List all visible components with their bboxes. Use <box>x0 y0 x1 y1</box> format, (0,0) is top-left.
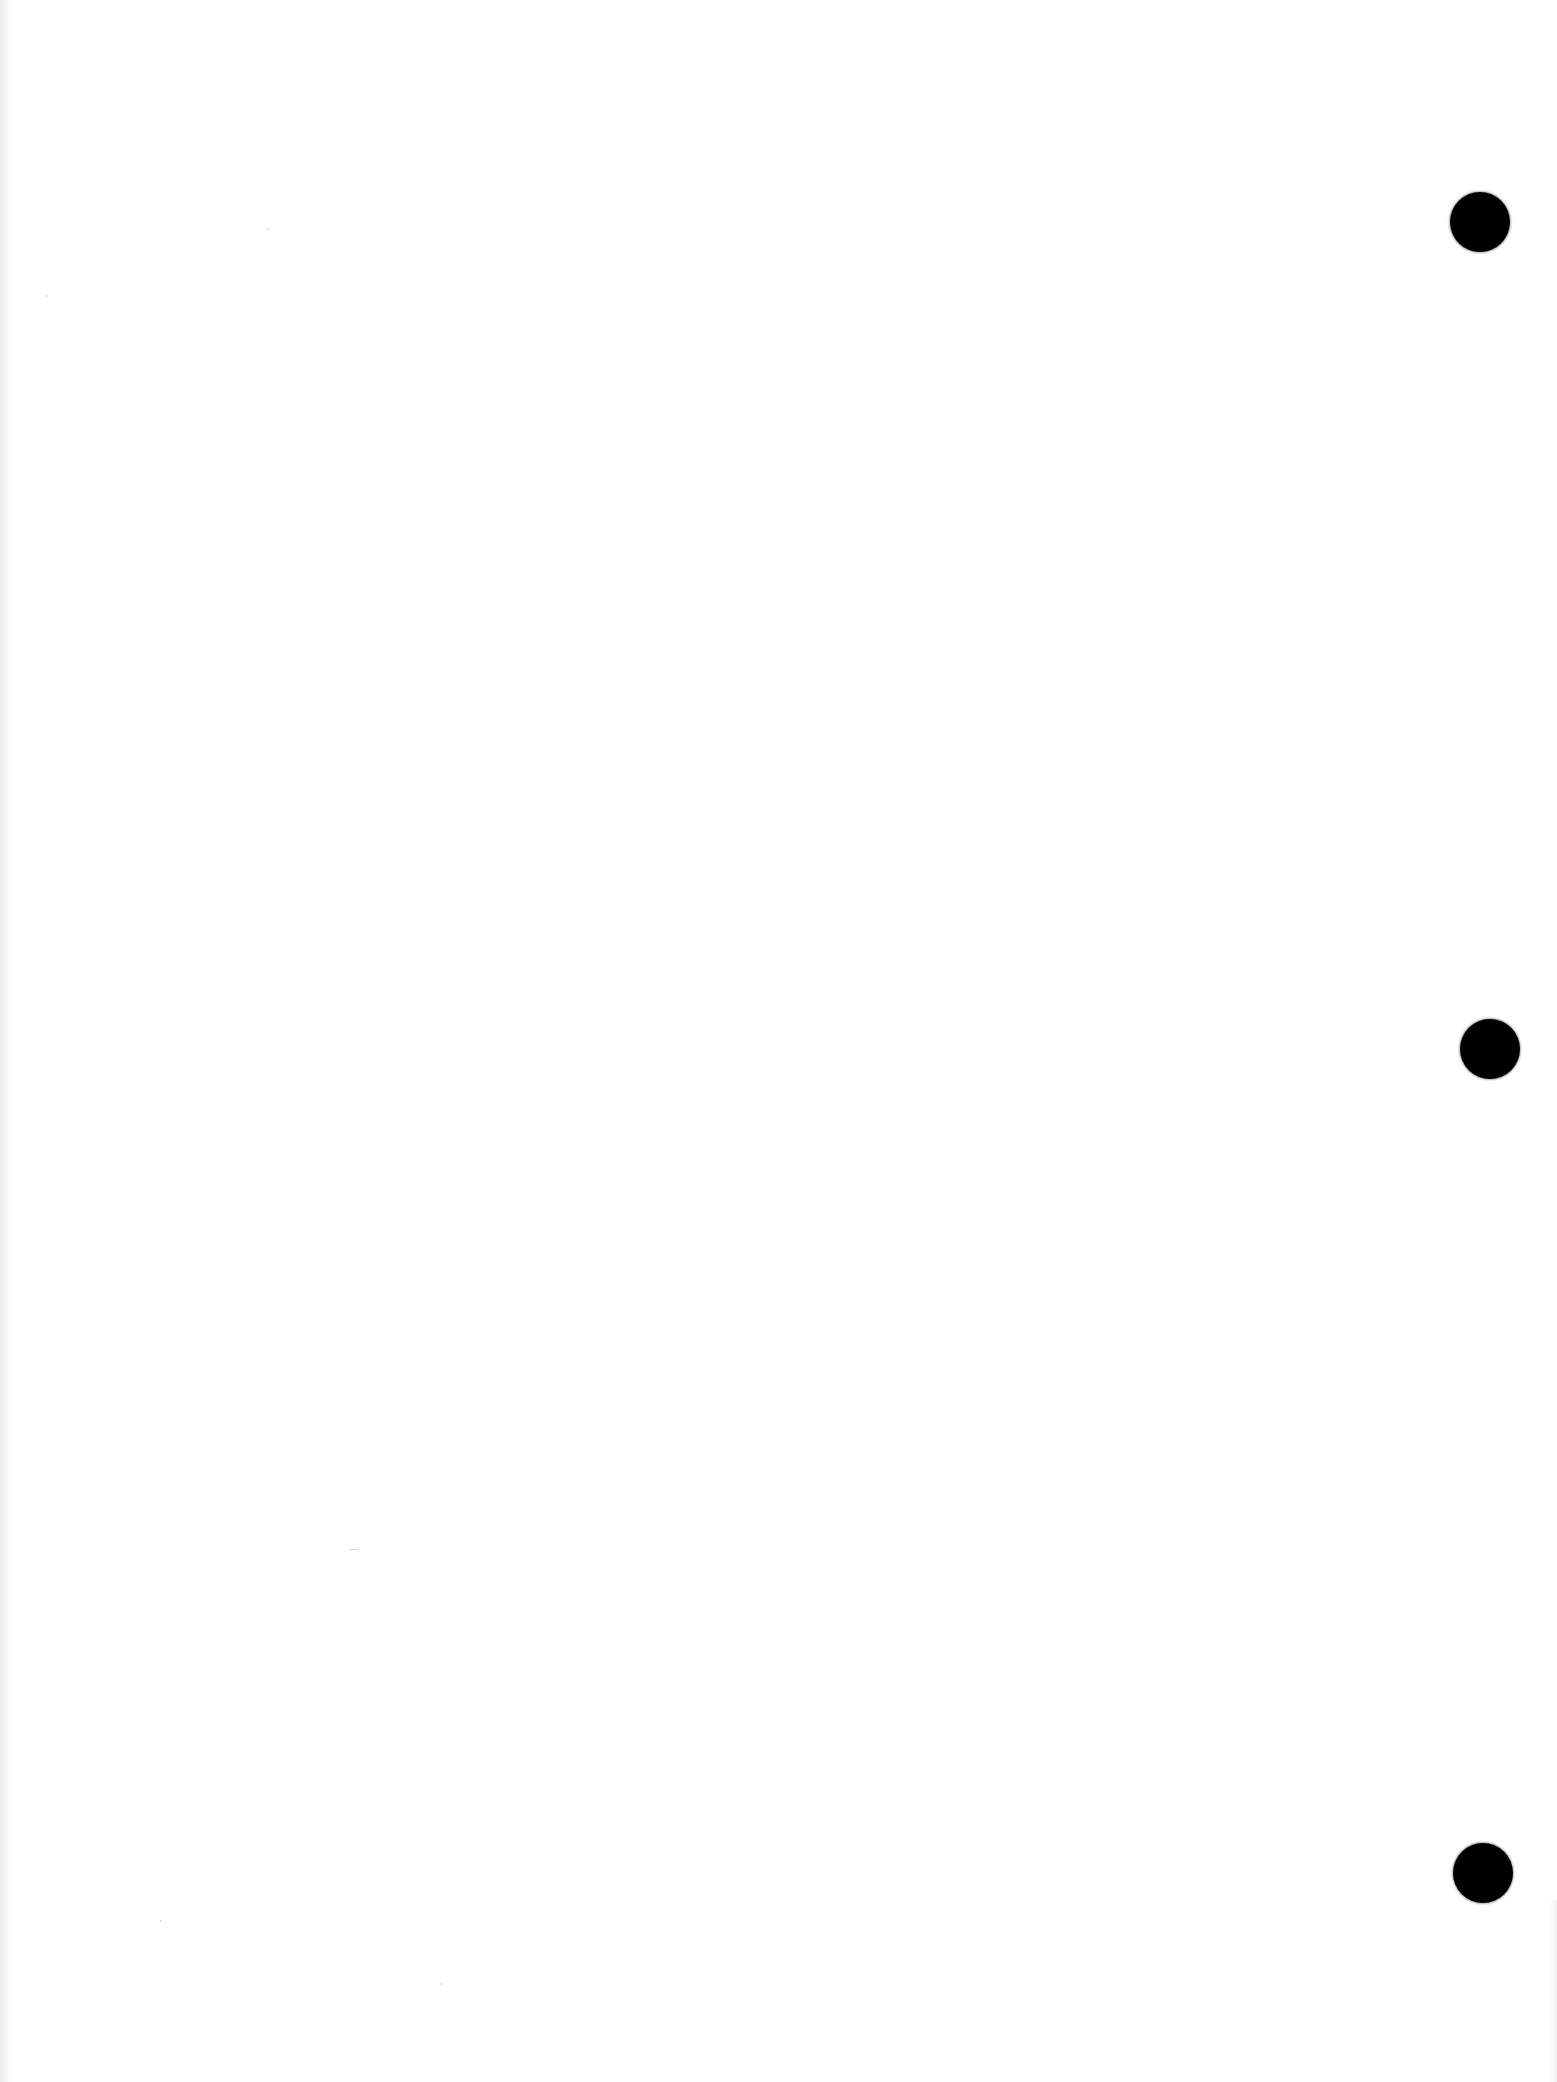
punch-hole-top <box>1450 192 1510 252</box>
scan-speck <box>350 1549 358 1550</box>
scan-speck <box>160 1920 162 1922</box>
scan-speck <box>46 295 48 297</box>
punch-hole-middle <box>1460 1019 1520 1079</box>
scan-edge-shadow-right <box>1549 1900 1557 2082</box>
blank-page <box>0 0 1557 2082</box>
scan-speck <box>440 1983 442 1985</box>
scan-speck <box>267 228 269 230</box>
scan-edge-shadow-left <box>0 0 14 2082</box>
punch-hole-bottom <box>1453 1843 1513 1903</box>
